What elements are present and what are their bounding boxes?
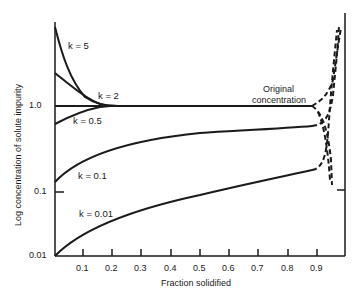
x-tick: 0.1 xyxy=(76,263,89,273)
x-tick: 0.8 xyxy=(281,263,294,273)
y-tick-1: 1.0 xyxy=(29,100,42,110)
x-tick: 0.6 xyxy=(222,263,235,273)
label-k001: k = 0.01 xyxy=(79,208,113,219)
label-k5: k = 5 xyxy=(68,40,89,51)
y-tick-01: 0.1 xyxy=(34,186,47,196)
chart-plot xyxy=(0,0,359,297)
x-tick: 0.5 xyxy=(193,263,206,273)
x-axis-label: Fraction solidified xyxy=(161,278,231,288)
x-tick: 0.9 xyxy=(310,263,323,273)
x-tick: 0.3 xyxy=(134,263,147,273)
annotation-original: Original xyxy=(263,84,294,94)
y-tick-001: 0.01 xyxy=(29,250,47,260)
x-tick: 0.4 xyxy=(164,263,177,273)
annotation-concentration: concentration xyxy=(252,95,306,105)
x-tick: 0.2 xyxy=(105,263,118,273)
y-axis-label: Log concentration of solute impurity xyxy=(13,75,23,235)
label-k01: k = 0.1 xyxy=(78,170,107,181)
label-k05: k = 0.5 xyxy=(73,115,102,126)
label-k2: k = 2 xyxy=(98,90,119,101)
x-tick: 0.7 xyxy=(251,263,264,273)
